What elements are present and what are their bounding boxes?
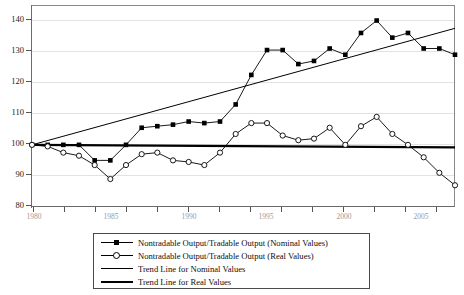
data-point-nominal	[359, 31, 364, 36]
data-point-real	[155, 150, 160, 155]
data-point-nominal	[139, 125, 144, 130]
data-point-real	[327, 125, 332, 130]
data-point-nominal	[61, 143, 66, 148]
data-point-nominal	[92, 158, 97, 163]
legend-label-nominal-series: Nontradable Output/Tradable Output (Nomi…	[138, 238, 328, 249]
data-point-real	[358, 124, 363, 129]
data-point-nominal	[124, 143, 129, 148]
data-point-real	[186, 159, 191, 164]
legend-item-trend-real: Trend Line for Real Values	[94, 276, 369, 288]
legend-item-trend-nominal: Trend Line for Nominal Values	[94, 263, 369, 275]
data-point-real	[421, 155, 426, 160]
data-point-real	[280, 133, 285, 138]
data-point-real	[202, 162, 207, 167]
data-point-nominal	[171, 122, 176, 127]
data-point-nominal	[453, 52, 458, 57]
data-point-nominal	[390, 35, 395, 40]
data-point-nominal	[77, 143, 82, 148]
data-point-nominal	[265, 48, 270, 53]
data-point-nominal	[202, 121, 207, 126]
chart-legend: Nontradable Output/Tradable Output (Nomi…	[93, 233, 370, 289]
data-point-nominal	[155, 124, 160, 129]
data-point-real	[405, 142, 410, 147]
data-point-real	[45, 144, 50, 149]
data-point-nominal	[374, 18, 379, 23]
data-point-real	[139, 152, 144, 157]
series-nominal-line	[32, 21, 455, 161]
data-point-real	[108, 176, 113, 181]
data-point-real	[249, 120, 254, 125]
legend-key-thick-line	[100, 276, 134, 288]
data-point-nominal	[186, 119, 191, 124]
data-point-real	[374, 114, 379, 119]
data-point-nominal	[343, 52, 348, 57]
data-point-real	[452, 183, 457, 188]
data-point-real	[343, 142, 348, 147]
legend-label-trend-real: Trend Line for Real Values	[138, 277, 231, 288]
data-point-real	[390, 131, 395, 136]
data-point-nominal	[218, 119, 223, 124]
data-point-nominal	[312, 59, 317, 64]
legend-label-trend-nominal: Trend Line for Nominal Values	[138, 264, 245, 275]
data-point-real	[29, 142, 34, 147]
data-point-nominal	[233, 102, 238, 107]
legend-key-filled-square-line	[100, 237, 134, 249]
data-point-nominal	[249, 73, 254, 78]
trend-line-real	[32, 145, 455, 147]
data-point-nominal	[280, 48, 285, 53]
data-point-real	[61, 150, 66, 155]
trend-line-nominal	[32, 28, 455, 145]
legend-key-open-circle-line	[100, 250, 134, 262]
legend-item-real-series: Nontradable Output/Tradable Output (Real…	[94, 250, 369, 262]
data-point-nominal	[406, 31, 411, 36]
data-point-real	[311, 136, 316, 141]
data-point-nominal	[327, 46, 332, 51]
legend-key-thin-line	[100, 263, 134, 275]
data-point-real	[217, 150, 222, 155]
data-point-nominal	[108, 158, 113, 163]
data-point-real	[170, 158, 175, 163]
data-point-real	[264, 120, 269, 125]
data-point-nominal	[437, 46, 442, 51]
data-point-real	[233, 131, 238, 136]
series-real-markers	[29, 114, 457, 188]
data-point-real	[437, 170, 442, 175]
legend-item-nominal-series: Nontradable Output/Tradable Output (Nomi…	[94, 237, 369, 249]
data-point-nominal	[296, 62, 301, 67]
data-point-real	[92, 162, 97, 167]
data-point-real	[296, 138, 301, 143]
data-point-nominal	[421, 46, 426, 51]
legend-label-real-series: Nontradable Output/Tradable Output (Real…	[138, 251, 314, 262]
chart-container: 140 130 120 110 100 90 80 1980 1985 1990…	[0, 0, 464, 295]
data-point-real	[76, 153, 81, 158]
data-point-real	[123, 162, 128, 167]
